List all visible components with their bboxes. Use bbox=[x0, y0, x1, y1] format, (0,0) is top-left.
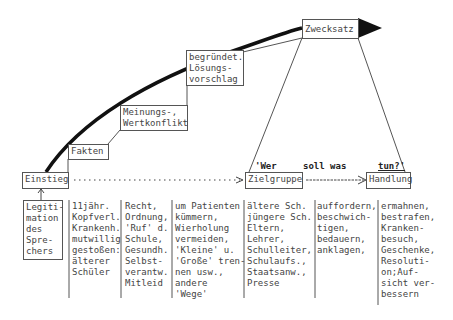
step-konflikt: Meinungs-, Wertkonflikt bbox=[120, 105, 188, 131]
zielgruppe-examples: ältere Sch. jüngere Sch. Eltern, Lehrer,… bbox=[247, 201, 312, 289]
zielgruppe-box: Zielgruppe bbox=[245, 172, 303, 189]
verben-examples: auffordern, beschwich- tigen, bedauern, … bbox=[317, 201, 377, 256]
question-part-1: 'Wer bbox=[255, 161, 277, 172]
step-einstieg: Einstieg bbox=[22, 172, 69, 189]
step-zwecksatz: Zwecksatz bbox=[302, 19, 359, 39]
question-part-2: soll was bbox=[303, 161, 346, 172]
step-loesung: begründet. Lösungs- vorschlag bbox=[186, 50, 244, 86]
konflikt-examples: Recht, Ordnung, 'Ruf' d. Schule, Gesundh… bbox=[125, 201, 168, 289]
loesung-examples: um Patienten kümmern, Wierholung vermeid… bbox=[175, 201, 245, 300]
step-fakten: Fakten bbox=[68, 144, 109, 160]
handlung-examples: ermahnen, bestrafen, Kranken- besuch, Ge… bbox=[381, 201, 435, 300]
handlung-box: Handlung bbox=[366, 172, 411, 189]
legitimation-box: Legiti- mation des Spre- chers bbox=[23, 200, 63, 260]
fakten-examples: 11jähr. Kopfverl. Krankenh. mutwillig ge… bbox=[72, 201, 121, 278]
arrowhead-icon bbox=[358, 18, 382, 38]
question-part-3: tun?' bbox=[378, 161, 405, 172]
